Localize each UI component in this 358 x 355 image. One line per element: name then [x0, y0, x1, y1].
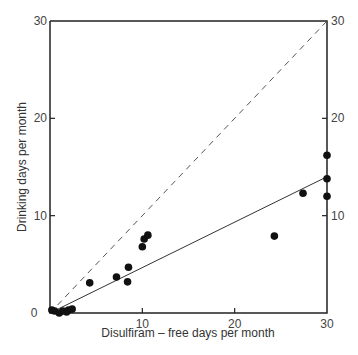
y-tick-label-left: 20 [34, 111, 48, 125]
identity-line [50, 21, 327, 313]
data-point [323, 192, 331, 200]
y-tick-label-left: 10 [34, 209, 48, 223]
x-axis-label: Disulfiram – free days per month [101, 326, 274, 340]
scatter-chart: 0102030102030102030 Disulfiram – free da… [0, 0, 358, 355]
data-point [144, 231, 152, 239]
data-point [323, 152, 331, 160]
data-point [125, 263, 133, 271]
data-point [323, 175, 331, 183]
data-points [48, 152, 331, 317]
data-point [299, 189, 307, 197]
axis-ticks: 0102030102030102030 [31, 14, 345, 331]
regression-line [50, 177, 327, 313]
y-tick-label-right: 30 [331, 14, 345, 28]
x-tick-label: 30 [320, 317, 334, 331]
y-tick-label-right: 20 [331, 111, 345, 125]
data-point [86, 279, 94, 287]
x-tick-label: 0 [31, 306, 38, 320]
y-tick-label-left: 30 [34, 14, 48, 28]
y-tick-label-right: 10 [331, 209, 345, 223]
data-point [68, 305, 76, 313]
data-point [113, 273, 121, 281]
y-axis-label: Drinking days per month [15, 102, 29, 232]
data-point [124, 278, 132, 286]
reference-lines [50, 21, 327, 313]
data-point [139, 243, 147, 251]
data-point [271, 232, 279, 240]
